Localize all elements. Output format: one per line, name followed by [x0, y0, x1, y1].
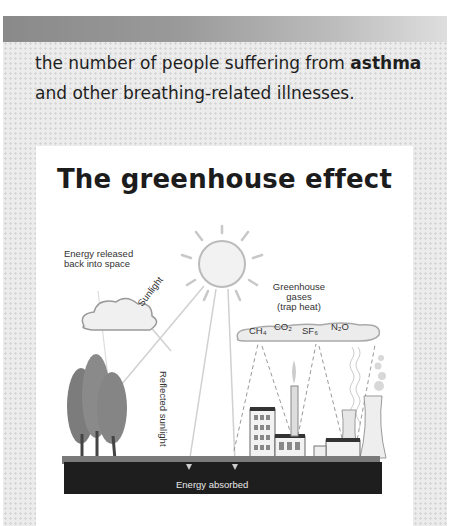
- label-energy-released: Energy released back into space: [64, 249, 133, 269]
- header-band: [3, 16, 447, 42]
- sun-icon: [182, 226, 262, 300]
- paragraph-text: the number of people suffering from: [35, 53, 350, 73]
- paragraph-text-end: and other breathing-related illnesses.: [35, 83, 355, 103]
- paragraph-bold-term: asthma: [350, 53, 421, 73]
- label-reflected-sunlight: Reflected sunlight: [158, 371, 168, 447]
- greenhouse-figure-card: The greenhouse effect: [36, 146, 413, 526]
- factory-icon: [250, 360, 305, 458]
- greenhouse-illustration: [36, 146, 413, 526]
- trees-icon: [67, 354, 127, 460]
- label-ch4: CH₄: [249, 326, 267, 336]
- label-energy-absorbed: Energy absorbed: [176, 480, 248, 490]
- label-sf6: SF₆: [302, 326, 318, 336]
- label-greenhouse-gases: Greenhouse gases (trap heat): [264, 282, 334, 312]
- label-n2o: N₂O: [331, 322, 349, 332]
- body-paragraph: the number of people suffering from asth…: [35, 48, 435, 108]
- label-co2: CO₂: [274, 322, 292, 332]
- power-plant-icon: [314, 396, 386, 458]
